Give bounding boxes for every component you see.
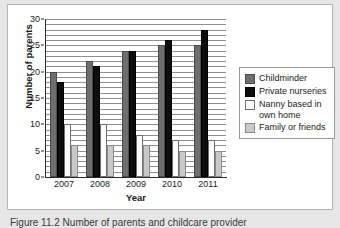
bar-group	[122, 19, 150, 177]
y-tick-label: 15	[30, 93, 40, 103]
legend-item: Childminder	[245, 73, 330, 84]
bar-group	[158, 19, 186, 177]
y-tick-mark	[41, 98, 44, 99]
bar	[215, 151, 222, 177]
chart-panel: Number of parents 051015202530 200720082…	[7, 4, 333, 210]
legend-label: Private nurseries	[259, 86, 327, 97]
figure-caption: Figure 11.2 Number of parents and childc…	[10, 217, 330, 228]
chart-legend: ChildminderPrivate nurseriesNanny based …	[239, 67, 335, 139]
bar	[143, 145, 150, 177]
y-tick-label: 10	[30, 119, 40, 129]
bar-group	[194, 19, 222, 177]
y-tick-mark	[41, 177, 44, 178]
x-axis-ticks: 20072008200920102011	[46, 179, 226, 193]
bar	[64, 124, 71, 177]
bar	[50, 72, 57, 177]
bar-group	[86, 19, 114, 177]
legend-item: Nanny based in own home	[245, 99, 330, 120]
x-axis-label: Year	[46, 192, 226, 203]
legend-swatch-icon	[245, 100, 255, 110]
plot-area	[46, 19, 226, 177]
bar	[57, 82, 64, 177]
bar	[107, 145, 114, 177]
bar	[71, 145, 78, 177]
legend-label: Childminder	[259, 73, 307, 84]
x-tick-label: 2009	[118, 179, 154, 193]
x-tick-label: 2011	[190, 179, 226, 193]
y-tick-label: 30	[30, 14, 40, 24]
legend-swatch-icon	[245, 87, 255, 97]
x-tick-label: 2008	[82, 179, 118, 193]
bar	[122, 51, 129, 177]
bar	[201, 30, 208, 177]
y-tick-mark	[41, 124, 44, 125]
bar	[129, 51, 136, 177]
y-tick-mark	[41, 45, 44, 46]
y-tick-label: 25	[30, 40, 40, 50]
legend-item: Private nurseries	[245, 86, 330, 97]
y-axis-ticks: 051015202530	[22, 13, 44, 183]
bar	[158, 45, 165, 177]
bar	[194, 45, 201, 177]
y-tick-mark	[41, 71, 44, 72]
legend-item: Family or friends	[245, 122, 330, 133]
y-tick-label: 20	[30, 67, 40, 77]
legend-label: Family or friends	[259, 122, 326, 133]
bar	[100, 124, 107, 177]
bar-group	[50, 19, 78, 177]
bar	[165, 40, 172, 177]
bar	[86, 61, 93, 177]
bar	[208, 140, 215, 177]
legend-swatch-icon	[245, 123, 255, 133]
y-tick-mark	[41, 19, 44, 20]
legend-swatch-icon	[245, 74, 255, 84]
x-tick-label: 2010	[154, 179, 190, 193]
bar	[136, 135, 143, 177]
bar	[172, 140, 179, 177]
bar	[93, 66, 100, 177]
y-tick-label: 0	[35, 172, 40, 182]
bar	[179, 151, 186, 177]
figure-container: Number of parents 051015202530 200720082…	[0, 0, 340, 228]
y-tick-mark	[41, 150, 44, 151]
x-tick-label: 2007	[46, 179, 82, 193]
bars-layer	[46, 19, 226, 177]
legend-label: Nanny based in own home	[259, 99, 322, 120]
y-tick-label: 5	[35, 146, 40, 156]
x-axis-line	[45, 177, 227, 178]
